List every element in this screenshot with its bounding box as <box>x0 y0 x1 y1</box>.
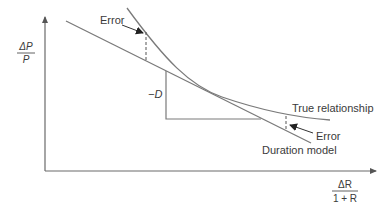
y-axis-label: ΔP P <box>17 41 35 65</box>
error-label-bottom: Error <box>316 130 341 142</box>
slope-label: −D <box>148 88 162 100</box>
x-label-denominator: 1 + R <box>333 193 357 204</box>
duration-model-line <box>66 21 311 143</box>
error-label-top: Error <box>100 14 125 26</box>
error-arrow-bottom <box>290 125 313 133</box>
x-axis-label: ΔR 1 + R <box>332 179 358 204</box>
y-label-denominator: P <box>23 54 30 65</box>
true-relationship-label: True relationship <box>292 102 374 114</box>
duration-diagram: ΔP P ΔR 1 + R Error −D True relationship… <box>0 0 392 211</box>
x-label-numerator: ΔR <box>338 179 352 190</box>
y-label-numerator: ΔP <box>18 41 33 52</box>
duration-model-label: Duration model <box>262 144 337 156</box>
